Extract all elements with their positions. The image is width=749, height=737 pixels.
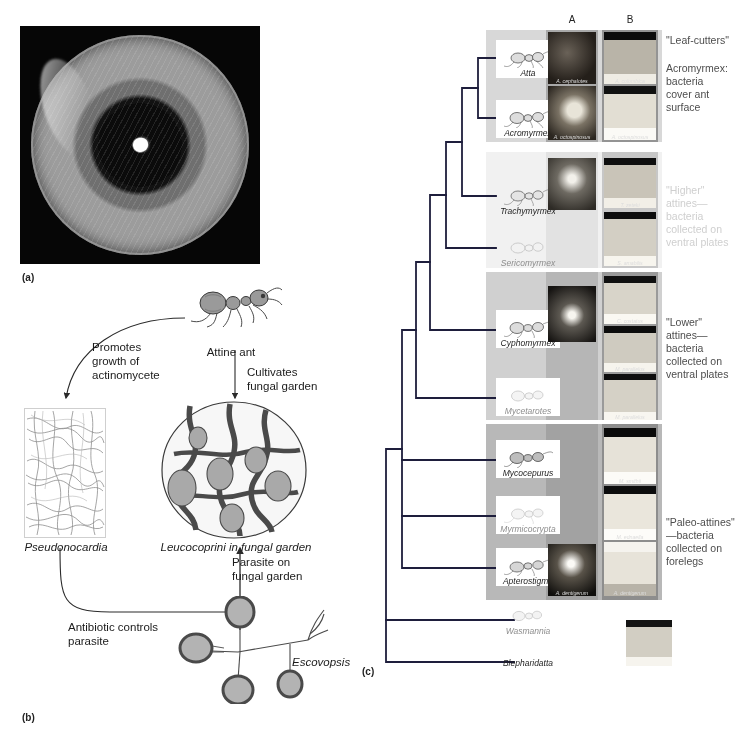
petri-dish-photo xyxy=(20,26,260,264)
attine-phylogeny: A B xyxy=(374,0,749,737)
micrograph-b-mycocepurus: M. smithii xyxy=(604,428,656,484)
micrograph-caption: M. ednaella xyxy=(604,534,656,540)
micrograph-caption: A. colombica xyxy=(604,78,656,84)
micrograph-a-acromyrmex: A. octospinosus xyxy=(548,86,596,140)
micrograph-caption: T. zeteki xyxy=(604,202,656,208)
micrograph-caption: A. dentigerum xyxy=(548,590,596,596)
taxon-sericomyrmex[interactable]: Sericomyrmex xyxy=(496,230,560,268)
fungal-garden-label: Leucocoprini in fungal garden xyxy=(120,540,352,554)
taxon-name: Wasmannia xyxy=(506,626,551,636)
taxon-name: Myrmicocrypta xyxy=(500,524,555,534)
taxon-name: Sericomyrmex xyxy=(501,258,555,268)
micrograph-caption: M. smithii xyxy=(604,478,656,484)
cultivates-garden-label: Cultivates fungal garden xyxy=(247,365,333,393)
micrograph-caption: A. octospinosus xyxy=(548,134,596,140)
micrograph-b-sericomyrmex: S. amabilis xyxy=(604,212,656,266)
micrograph-caption: A. dentigerum xyxy=(604,590,656,596)
micrograph-caption: M. parallelus xyxy=(604,366,656,372)
micrograph-a-apterostigma: A. dentigerum xyxy=(548,544,596,596)
agar-plate xyxy=(31,35,249,255)
group-label-lower-attines: "Lower" attines— bacteria collected on v… xyxy=(666,316,749,381)
antibiotic-controls-label: Antibiotic controls parasite xyxy=(68,620,198,648)
micrograph-b-cyphomyrmex-2: M. parallelus xyxy=(604,326,656,372)
panel-c-letter: (c) xyxy=(362,666,374,677)
micrograph-b-atta: A. colombica xyxy=(604,32,656,84)
taxon-wasmannia[interactable]: Wasmannia xyxy=(496,604,560,636)
micrograph-a-cyphomyrmex: C. costatus xyxy=(548,286,596,342)
group-label-higher-attines: "Higher" attines— bacteria collected on … xyxy=(666,184,749,249)
group-note-acromyrmex: Acromyrmex: bacteria cover ant surface xyxy=(666,62,749,114)
taxon-name: Blepharidatta xyxy=(503,658,553,668)
micrograph-b-mycetarotes: M. parallelus xyxy=(604,374,656,420)
micrograph-b-cyphomyrmex: C. costatus xyxy=(604,276,656,324)
taxon-name: Mycetarotes xyxy=(505,406,551,416)
promotes-growth-label: Promotes growth of actinomycete xyxy=(92,340,178,382)
taxon-mycocepurus[interactable]: Mycocepurus xyxy=(496,440,560,478)
taxon-mycetarotes[interactable]: Mycetarotes xyxy=(496,378,560,416)
taxon-myrmicocrypta[interactable]: Myrmicocrypta xyxy=(496,496,560,534)
escovopsis-illustration xyxy=(178,596,330,704)
micrograph-caption: S. amabilis xyxy=(604,260,656,266)
attine-ant-illustration xyxy=(183,283,283,329)
micrograph-b-apterostigma: A. dentigerum xyxy=(604,542,656,596)
taxon-blepharidatta[interactable]: Blepharidatta xyxy=(496,654,560,668)
panel-b-letter: (b) xyxy=(22,712,35,723)
antibiotic-disk xyxy=(136,138,148,150)
micrograph-a-trachymyrmex: T. zeteki xyxy=(548,158,596,210)
pseudonocardia-label: Pseudonocardia xyxy=(16,540,116,554)
parasite-on-garden-label: Parasite on fungal garden xyxy=(232,555,316,583)
micrograph-caption: A. octospinosus xyxy=(604,134,656,140)
micrograph-caption: A. cephalotes xyxy=(548,78,596,84)
micrograph-b-trachymyrmex: T. zeteki xyxy=(604,158,656,208)
escovopsis-label: Escovopsis xyxy=(292,655,350,669)
group-label-paleo-attines: "Paleo-attines" —bacteria collected on f… xyxy=(666,516,749,568)
taxon-name: Atta xyxy=(520,68,535,78)
micrograph-outgroup xyxy=(626,620,672,666)
micrograph-a-atta: A. cephalotes xyxy=(548,32,596,84)
fungal-garden-illustration xyxy=(160,400,308,540)
taxon-name: Apterostigma xyxy=(503,576,553,586)
garden-genus: Leucocoprini in fungal garden xyxy=(161,541,312,553)
taxon-name: Acromyrmex xyxy=(504,128,552,138)
group-label-leaf-cutters: "Leaf-cutters" xyxy=(666,34,749,47)
micrograph-caption: M. parallelus xyxy=(604,414,656,420)
ant-label: Attine ant xyxy=(186,345,276,359)
micrograph-caption: C. costatus xyxy=(604,318,656,324)
pseudonocardia-mycelium-image xyxy=(24,408,106,538)
micrograph-b-acromyrmex: A. octospinosus xyxy=(604,86,656,140)
micrograph-b-myrmicocrypta: M. ednaella xyxy=(604,486,656,540)
taxon-name: Mycocepurus xyxy=(503,468,554,478)
